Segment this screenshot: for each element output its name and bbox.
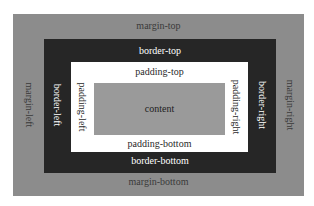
border-left-label: border-left	[52, 84, 62, 127]
content-box: content	[94, 83, 225, 135]
content-label: content	[94, 104, 225, 114]
border-right-label: border-right	[257, 81, 267, 129]
margin-left-label: margin-left	[24, 83, 34, 128]
border-bottom-label: border-bottom	[44, 156, 276, 166]
padding-right-label: padding-right	[231, 80, 241, 134]
padding-left-label: padding-left	[77, 83, 87, 132]
margin-bottom-label: margin-bottom	[13, 177, 304, 187]
border-top-label: border-top	[44, 46, 276, 56]
padding-top-label: padding-top	[71, 67, 248, 77]
margin-top-label: margin-top	[13, 21, 304, 31]
padding-bottom-label: padding-bottom	[71, 139, 248, 149]
margin-right-label: margin-right	[285, 80, 295, 130]
